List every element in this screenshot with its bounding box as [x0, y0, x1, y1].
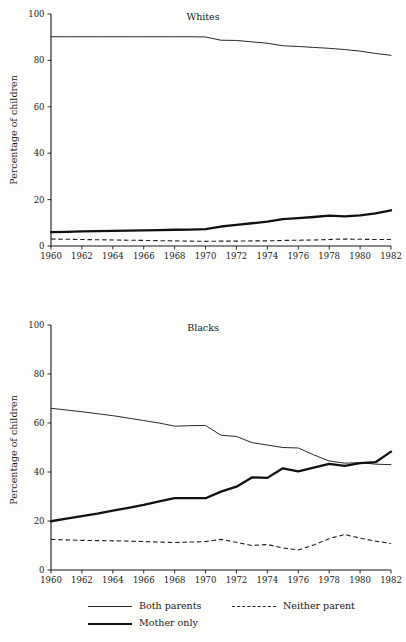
x-tick-label: 1964 [102, 575, 124, 585]
y-axis-title-whites: Percentage of children [8, 75, 19, 185]
x-tick-label: 1976 [287, 575, 309, 585]
y-tick-label: 40 [34, 467, 45, 477]
series-line-neither-parent [51, 239, 391, 241]
y-tick-label: 20 [34, 195, 45, 205]
figure-root: 020406080100 196019621964196619681970197… [0, 0, 406, 642]
axis-lines [51, 325, 391, 570]
x-tick-label: 1972 [226, 575, 248, 585]
x-tick-label: 1978 [318, 575, 340, 585]
legend-item-mother-only: Mother only [88, 617, 198, 628]
x-tick-label: 1980 [349, 575, 371, 585]
y-tick-label: 0 [39, 241, 44, 251]
panel-title-blacks: Blacks [187, 322, 219, 333]
legend-item-both-parents: Both parents [88, 600, 201, 611]
series-line-both-parents [51, 408, 391, 464]
x-tick-label: 1966 [133, 251, 155, 261]
x-tick-label: 1960 [40, 575, 62, 585]
legend-swatch-thin-line-icon [88, 601, 132, 611]
y-tick-labels: 020406080100 [28, 320, 44, 575]
legend-swatch-thick-line-icon [88, 618, 132, 628]
y-tick-labels: 020406080100 [28, 9, 44, 251]
chart-panel-whites: 020406080100 196019621964196619681970197… [0, 0, 406, 290]
y-tick-label: 60 [34, 102, 45, 112]
y-tick-label: 60 [34, 418, 45, 428]
x-tick-label: 1982 [380, 251, 402, 261]
legend-item-neither-parent: Neither parent [232, 600, 355, 611]
x-tick-labels: 1960196219641966196819701972197419761978… [40, 251, 402, 261]
chart-svg-blacks: 020406080100 196019621964196619681970197… [0, 300, 406, 595]
panel-title-whites: Whites [186, 11, 219, 22]
x-tick-label: 1978 [318, 251, 340, 261]
legend-label-neither-parent: Neither parent [283, 600, 355, 611]
legend-label-both-parents: Both parents [139, 600, 201, 611]
x-tick-label: 1970 [195, 251, 217, 261]
x-tick-label: 1964 [102, 251, 124, 261]
x-tick-label: 1976 [287, 251, 309, 261]
y-tick-label: 100 [28, 9, 44, 19]
x-tick-label: 1980 [349, 251, 371, 261]
y-axis-title-blacks: Percentage of children [8, 395, 19, 505]
x-tick-label: 1968 [164, 575, 186, 585]
y-tick-label: 100 [28, 320, 44, 330]
legend-label-mother-only: Mother only [139, 617, 198, 628]
x-tick-label: 1972 [226, 251, 248, 261]
series-line-both-parents [51, 37, 391, 56]
x-tick-label: 1970 [195, 575, 217, 585]
x-tick-label: 1974 [257, 575, 279, 585]
y-tick-label: 80 [34, 369, 45, 379]
y-tick-label: 20 [34, 516, 45, 526]
chart-svg-whites: 020406080100 196019621964196619681970197… [0, 0, 406, 290]
x-tick-label: 1968 [164, 251, 186, 261]
x-tick-label: 1960 [40, 251, 62, 261]
legend-swatch-dashed-line-icon [232, 601, 276, 611]
x-tick-label: 1962 [71, 251, 93, 261]
x-tick-label: 1982 [380, 575, 402, 585]
series-line-mother-only [51, 210, 391, 232]
x-tick-labels: 1960196219641966196819701972197419761978… [40, 575, 402, 585]
x-tick-label: 1974 [257, 251, 279, 261]
x-tick-label: 1966 [133, 575, 155, 585]
y-tick-label: 40 [34, 148, 45, 158]
series-line-neither-parent [51, 534, 391, 549]
chart-panel-blacks: 020406080100 196019621964196619681970197… [0, 300, 406, 595]
figure-legend: Both parents Mother only Neither parent [0, 596, 406, 642]
x-tick-label: 1962 [71, 575, 93, 585]
y-tick-label: 80 [34, 55, 45, 65]
y-tick-label: 0 [39, 565, 44, 575]
